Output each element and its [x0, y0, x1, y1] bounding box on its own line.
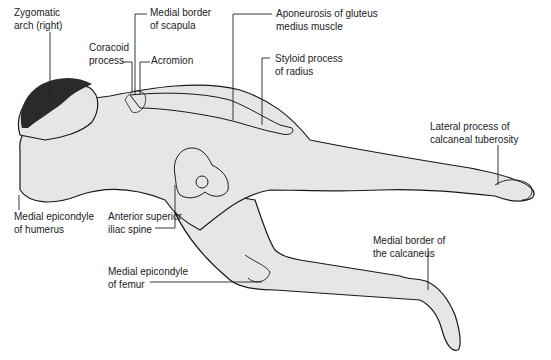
label-line: Styloid process [275, 52, 343, 65]
label-line: Aponeurosis of gluteus [276, 7, 378, 20]
label-line: iliac spine [108, 223, 182, 236]
label-zygomatic-arch: Zygomatic arch (right) [14, 6, 62, 32]
label-line: Lateral process of [430, 120, 518, 133]
label-line: Medial border of [373, 234, 445, 247]
label-line: process [89, 54, 129, 67]
label-medial-epicondyle-femur: Medial epicondyle of femur [108, 265, 188, 291]
label-medial-epicondyle-humerus: Medial epicondyle of humerus [14, 210, 94, 236]
label-line: medius muscle [276, 20, 378, 33]
label-acromion: Acromion [151, 54, 193, 67]
label-styloid-process-radius: Styloid process of radius [275, 52, 343, 78]
label-line: Acromion [151, 54, 193, 67]
label-medial-border-scapula: Medial border of scapula [150, 6, 211, 32]
label-aponeurosis-gluteus-medius: Aponeurosis of gluteus medius muscle [276, 7, 378, 33]
label-line: the calcaneus [373, 247, 445, 260]
label-medial-border-calcaneus: Medial border of the calcaneus [373, 234, 445, 260]
label-lateral-process-calcaneal-tuberosity: Lateral process of calcaneal tuberosity [430, 120, 518, 146]
anatomy-diagram: Zygomatic arch (right) Medial border of … [0, 0, 551, 360]
label-line: Medial epicondyle [14, 210, 94, 223]
label-line: of radius [275, 65, 343, 78]
label-coracoid-process: Coracoid process [89, 41, 129, 67]
label-line: calcaneal tuberosity [430, 133, 518, 146]
label-line: Zygomatic [14, 6, 62, 19]
label-line: Coracoid [89, 41, 129, 54]
label-line: of humerus [14, 223, 94, 236]
label-line: of scapula [150, 19, 211, 32]
label-anterior-superior-iliac-spine: Anterior superior iliac spine [108, 210, 182, 236]
label-line: Medial epicondyle [108, 265, 188, 278]
label-line: of femur [108, 278, 188, 291]
label-line: Medial border [150, 6, 211, 19]
label-line: Anterior superior [108, 210, 182, 223]
label-line: arch (right) [14, 19, 62, 32]
